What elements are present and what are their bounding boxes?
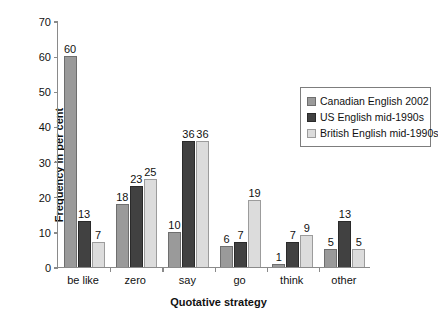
bar-value-label: 7 (238, 229, 244, 241)
bar (286, 242, 299, 267)
x-axis-tick-mark (319, 267, 320, 272)
bar-value-label: 6 (224, 233, 230, 245)
y-axis-tick-mark (54, 57, 58, 58)
y-axis-tick-mark (54, 21, 58, 22)
bar-value-label: 25 (144, 166, 156, 178)
bar-column: 1 (272, 21, 285, 267)
bar-value-label: 7 (95, 229, 101, 241)
x-axis-tick-label: other (318, 274, 370, 286)
bar-column: 36 (182, 21, 195, 267)
bar (272, 264, 285, 268)
bar (220, 246, 233, 267)
bar (144, 179, 157, 267)
legend-item-label: British English mid-1990s (320, 127, 438, 139)
bar-value-label: 7 (290, 229, 296, 241)
x-axis-tick-label: zero (109, 274, 161, 286)
x-axis-tick-mark (267, 267, 268, 272)
x-axis-tick-label: go (214, 274, 266, 286)
y-axis-tick-mark (54, 162, 58, 163)
bar-group: 182325 (116, 21, 157, 267)
bar (196, 141, 209, 268)
x-axis-tick-label: be like (57, 274, 109, 286)
legend-swatch-icon (307, 129, 316, 138)
bar (234, 242, 247, 267)
legend-item: Canadian English 2002 (307, 93, 424, 109)
bar (168, 232, 181, 267)
x-axis-tick-mark (162, 267, 163, 272)
y-axis-tick-label: 0 (45, 260, 51, 276)
bar-value-label: 18 (116, 191, 128, 203)
bar-value-label: 19 (248, 187, 260, 199)
bar (64, 56, 77, 267)
bar (182, 141, 195, 268)
y-axis-tick-mark (54, 267, 58, 268)
legend-swatch-icon (307, 97, 316, 106)
y-axis-tick-mark (54, 127, 58, 128)
bar-column: 19 (248, 21, 261, 267)
y-axis-tick-mark (54, 197, 58, 198)
y-axis-tick-label: 10 (39, 225, 51, 241)
y-axis-tick-mark (54, 92, 58, 93)
y-axis-tick-label: 60 (39, 49, 51, 65)
bar (300, 235, 313, 267)
bar-value-label: 23 (130, 173, 142, 185)
bar (338, 221, 351, 267)
bar-value-label: 36 (196, 128, 208, 140)
bar-column: 10 (168, 21, 181, 267)
bar (92, 242, 105, 267)
bar-value-label: 5 (328, 236, 334, 248)
bar-group: 103636 (168, 21, 209, 267)
x-axis-title: Quotative strategy (0, 296, 437, 308)
x-axis-tick-mark (110, 267, 111, 272)
legend-item-label: Canadian English 2002 (320, 95, 429, 107)
x-axis-tick-mark (215, 267, 216, 272)
bar-group: 6719 (220, 21, 261, 267)
bar-column: 18 (116, 21, 129, 267)
y-axis-tick-label: 30 (39, 155, 51, 171)
bar-column: 13 (78, 21, 91, 267)
bar-value-label: 5 (356, 236, 362, 248)
bar-column: 36 (196, 21, 209, 267)
bar-column: 6 (220, 21, 233, 267)
bar-column: 25 (144, 21, 157, 267)
x-axis-tick-label: think (266, 274, 318, 286)
bar-value-label: 10 (168, 219, 180, 231)
legend-swatch-icon (307, 113, 316, 122)
bar-value-label: 9 (304, 222, 310, 234)
y-axis-tick-label: 50 (39, 84, 51, 100)
bar-column: 7 (286, 21, 299, 267)
legend: Canadian English 2002 US English mid-199… (300, 87, 431, 147)
bar (130, 186, 143, 267)
bar-column: 7 (234, 21, 247, 267)
bar-value-label: 36 (182, 128, 194, 140)
bar (324, 249, 337, 267)
y-axis-tick-mark (54, 232, 58, 233)
bar-column: 7 (92, 21, 105, 267)
bar-value-label: 60 (64, 43, 76, 55)
bar-column: 60 (64, 21, 77, 267)
bar-column: 23 (130, 21, 143, 267)
bar-value-label: 13 (78, 208, 90, 220)
bar-value-label: 1 (276, 251, 282, 263)
bar-group: 60137 (64, 21, 105, 267)
bar (116, 204, 129, 267)
bar (248, 200, 261, 267)
legend-item: US English mid-1990s (307, 109, 424, 125)
legend-item-label: US English mid-1990s (320, 111, 424, 123)
x-axis-tick-label: say (161, 274, 213, 286)
bar-value-label: 13 (339, 208, 351, 220)
y-axis-tick-label: 40 (39, 119, 51, 135)
y-axis-tick-label: 20 (39, 190, 51, 206)
y-axis-tick-label: 70 (39, 14, 51, 30)
bar (78, 221, 91, 267)
legend-item: British English mid-1990s (307, 125, 424, 141)
bar (352, 249, 365, 267)
